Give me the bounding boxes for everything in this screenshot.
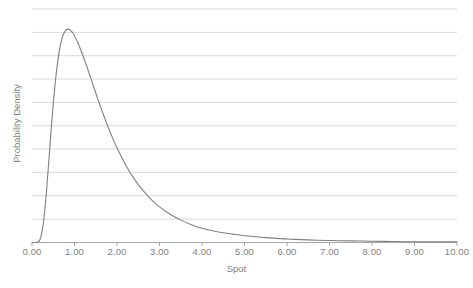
x-axis-title: Spot: [0, 263, 473, 274]
probability-density-chart: 0.001.002.003.004.005.006.007.008.009.00…: [0, 0, 473, 288]
x-axis-tick-label: 1.00: [65, 246, 84, 257]
x-axis-tick-label: 3.00: [150, 246, 169, 257]
x-axis-tick-label: 6.00: [278, 246, 297, 257]
gridlines: [32, 9, 457, 219]
y-axis-title: Probability Density: [11, 64, 22, 184]
x-axis-tick-label: 9.00: [405, 246, 424, 257]
x-axis-tick-label: 7.00: [320, 246, 339, 257]
x-axis-tick-label: 0.00: [23, 246, 42, 257]
x-axis-tick-label: 2.00: [108, 246, 127, 257]
x-axis-tick-label: 4.00: [193, 246, 212, 257]
x-axis-tick-label: 10.00: [445, 246, 469, 257]
x-axis-tick-label: 5.00: [235, 246, 254, 257]
plot-area: [0, 0, 473, 288]
x-axis-tick-label: 8.00: [363, 246, 382, 257]
density-curve: [32, 29, 457, 242]
